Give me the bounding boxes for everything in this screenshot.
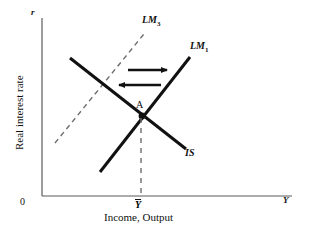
- curve-label-lm1-subscript: 1: [205, 46, 209, 54]
- curve-label-lm3-subscript: 3: [157, 20, 161, 28]
- curve-label-lm3-text: LM: [142, 14, 157, 25]
- is-lm-diagram-figure: r Y 0 Real interest rate Income, Output …: [0, 0, 309, 238]
- origin-label: 0: [20, 197, 25, 207]
- potential-output-tick-text: Y: [135, 199, 141, 211]
- curve-label-lm3: LM3: [142, 15, 161, 28]
- curve-label-is: IS: [185, 148, 194, 158]
- x-axis-title: Income, Output: [104, 212, 173, 223]
- diagram-canvas: [0, 0, 309, 238]
- potential-output-tick-label: Y: [135, 199, 141, 211]
- y-axis-variable-label: r: [31, 8, 35, 17]
- curve-label-lm1: LM1: [190, 41, 209, 54]
- curve-lm3: [55, 34, 144, 143]
- curve-label-lm1-text: LM: [190, 40, 205, 51]
- equilibrium-point-a: [139, 113, 146, 120]
- equilibrium-label-a: A: [136, 100, 143, 110]
- y-axis-title: Real interest rate: [14, 75, 25, 150]
- x-axis-variable-label: Y: [283, 196, 289, 205]
